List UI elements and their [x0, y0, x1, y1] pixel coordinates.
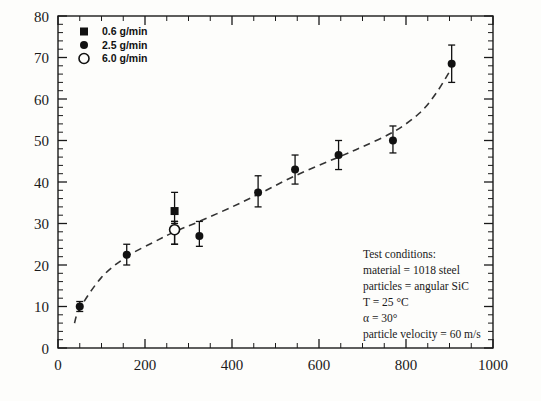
y-tick-label-0: 0	[42, 341, 50, 357]
plot-frame	[58, 16, 493, 348]
y-tick-label-30: 30	[34, 216, 49, 232]
legend-label-1: 2.5 g/min	[102, 39, 148, 51]
test-conditions-row-3: T = 25 °C	[363, 296, 409, 308]
data-point-1-1	[123, 244, 131, 265]
data-point-1-8	[448, 45, 456, 82]
legend-entry-0: 0.6 g/min	[80, 25, 148, 37]
y-tick-label-20: 20	[34, 258, 49, 274]
x-tick-label-200: 200	[134, 357, 157, 373]
data-point-1-5	[291, 155, 299, 184]
y-axis-tick-labels: 01020304050607080	[34, 9, 49, 357]
data-point-1-4	[254, 176, 262, 207]
test-conditions-annotation: Test conditions:material = 1018 steelpar…	[363, 248, 481, 341]
test-conditions-row-0: Test conditions:	[363, 248, 436, 260]
mass-loss-vs-particle-size-chart: 02004006008001000 01020304050607080 0.6 …	[0, 0, 541, 401]
data-point-1-6	[335, 141, 343, 170]
y-tick-label-80: 80	[34, 9, 49, 25]
x-axis-tick-labels: 02004006008001000	[54, 357, 508, 373]
x-tick-label-0: 0	[54, 357, 62, 373]
legend-entry-1: 2.5 g/min	[80, 39, 148, 51]
axis-ticks	[58, 16, 493, 348]
x-tick-label-1000: 1000	[478, 357, 508, 373]
data-point-1-7	[389, 126, 397, 153]
chart-canvas: 02004006008001000 01020304050607080 0.6 …	[0, 0, 541, 401]
test-conditions-row-1: material = 1018 steel	[363, 264, 460, 276]
test-conditions-row-5: particle velocity = 60 m/s	[363, 328, 481, 341]
data-point-1-0	[76, 302, 84, 312]
y-tick-label-50: 50	[34, 133, 49, 149]
legend-label-0: 0.6 g/min	[102, 25, 148, 37]
test-conditions-row-2: particles = angular SiC	[363, 280, 469, 293]
legend-entry-2: 6.0 g/min	[79, 52, 148, 64]
x-tick-label-400: 400	[221, 357, 244, 373]
x-tick-label-600: 600	[308, 357, 331, 373]
y-tick-label-40: 40	[34, 175, 49, 191]
y-tick-label-70: 70	[34, 50, 49, 66]
test-conditions-row-4: α = 30°	[363, 312, 398, 324]
data-point-0-0	[171, 192, 179, 223]
x-tick-label-800: 800	[395, 357, 418, 373]
y-tick-label-60: 60	[34, 92, 49, 108]
data-point-1-3	[195, 221, 203, 246]
y-tick-label-10: 10	[34, 299, 49, 315]
data-point-2-0	[170, 221, 180, 244]
chart-legend: 0.6 g/min2.5 g/min6.0 g/min	[79, 25, 148, 64]
legend-label-2: 6.0 g/min	[102, 52, 148, 64]
